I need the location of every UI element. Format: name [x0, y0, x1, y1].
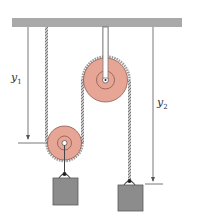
right-block [118, 179, 143, 211]
pulley-diagram: y1 y2 [0, 0, 199, 216]
rope-right [128, 80, 131, 182]
left-block [53, 172, 78, 205]
y1-label: y1 [10, 71, 22, 86]
rope-middle [81, 80, 84, 143]
y2-label: y2 [156, 96, 168, 111]
rope-left-fixed [45, 27, 48, 143]
pulley-support-rod-front [103, 27, 108, 78]
y1-dimension [18, 27, 56, 143]
ceiling [12, 18, 182, 27]
